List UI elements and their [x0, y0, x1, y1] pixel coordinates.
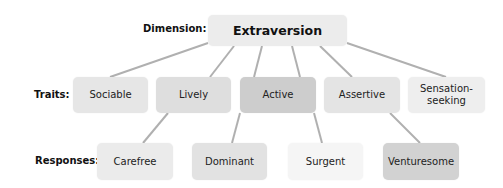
- connector-active-dominant: [232, 113, 240, 143]
- trait-box-sociable: Sociable: [73, 77, 148, 113]
- connector-dimension-active-right: [292, 46, 300, 77]
- connector-active-surgent: [314, 113, 322, 143]
- dimension-box-extraversion: Extraversion: [208, 15, 347, 46]
- responses-row-label: Responses:: [35, 155, 99, 166]
- trait-box-sensation-seeking: Sensation- seeking: [408, 77, 485, 113]
- response-box-dominant: Dominant: [192, 143, 267, 180]
- connector-dimension-lively: [210, 46, 234, 77]
- trait-label: Sociable: [89, 89, 131, 101]
- trait-label: Assertive: [339, 89, 385, 101]
- dimension-row-label: Dimension:: [143, 23, 206, 34]
- trait-label: Active: [263, 89, 294, 101]
- extraversion-hierarchy-diagram: Dimension: Traits: Responses: Extraversi…: [0, 0, 503, 188]
- trait-box-active: Active: [240, 77, 316, 113]
- connector-dimension-assertive: [320, 46, 352, 77]
- response-box-carefree: Carefree: [97, 143, 173, 180]
- connector-dimension-sensation-seeking: [347, 43, 446, 77]
- trait-label: Sensation- seeking: [420, 83, 473, 107]
- connector-dimension-active: [254, 46, 262, 77]
- connector-dimension-sociable: [110, 43, 208, 77]
- response-label: Surgent: [306, 156, 345, 168]
- trait-box-assertive: Assertive: [324, 77, 400, 113]
- response-label: Carefree: [114, 156, 157, 168]
- dimension-label: Extraversion: [233, 25, 322, 37]
- response-label: Dominant: [205, 156, 254, 168]
- trait-label: Lively: [179, 89, 208, 101]
- response-box-venturesome: Venturesome: [383, 143, 459, 180]
- traits-row-label: Traits:: [34, 89, 70, 100]
- response-label: Venturesome: [388, 156, 454, 168]
- connector-lively-carefree: [143, 113, 168, 143]
- response-box-surgent: Surgent: [288, 143, 363, 180]
- trait-box-lively: Lively: [156, 77, 231, 113]
- connector-assertive-venturesome: [390, 113, 420, 143]
